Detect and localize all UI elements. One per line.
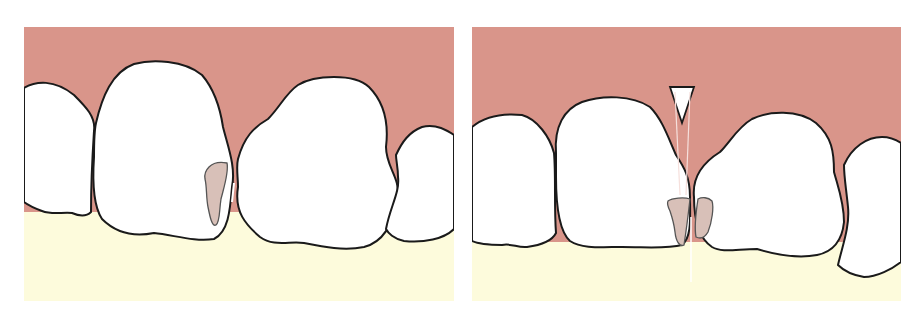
lateral-incisor-right <box>838 137 901 277</box>
panel-right <box>472 27 901 301</box>
lateral-incisor-left <box>472 115 556 248</box>
panel-left <box>24 27 454 301</box>
illustration-right <box>472 27 901 301</box>
illustration-left <box>24 27 454 301</box>
